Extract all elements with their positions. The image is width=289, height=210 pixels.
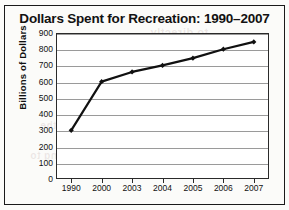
data-point-marker: [129, 69, 134, 74]
data-point-marker: [221, 47, 226, 52]
x-axis-tick-mark: [102, 179, 103, 183]
y-axis-tick-label: 100: [39, 158, 53, 168]
x-axis-tick-mark: [163, 179, 164, 183]
y-axis-tick-label: 600: [39, 77, 53, 87]
y-axis-tick-label: 700: [39, 60, 53, 70]
y-axis-tick-label: 500: [39, 93, 53, 103]
x-axis-tick-label: 2005: [183, 183, 202, 193]
chart-figure: to directly GRAPH A the going to Dollars…: [0, 0, 289, 210]
y-axis-tick-label: 300: [39, 125, 53, 135]
data-point-marker: [160, 63, 165, 68]
data-point-marker: [251, 39, 256, 44]
x-axis-tick-labels: 1990200020032004200520062007: [56, 183, 269, 199]
data-series-line: [56, 33, 269, 179]
y-axis-tick-label: 200: [39, 142, 53, 152]
y-axis-tick-label: 0: [48, 174, 53, 184]
y-axis-tick-label: 800: [39, 44, 53, 54]
series-polyline: [71, 42, 254, 130]
x-axis-tick-label: 2007: [244, 183, 263, 193]
chart-title: Dollars Spent for Recreation: 1990–2007: [0, 11, 289, 26]
y-axis-tick-label: 400: [39, 109, 53, 119]
x-axis-tick-label: 2000: [92, 183, 111, 193]
x-axis-tick-mark: [132, 179, 133, 183]
y-axis-tick-labels: 0100200300400500600700800900: [20, 33, 56, 179]
data-point-marker: [190, 56, 195, 61]
x-axis-tick-mark: [254, 179, 255, 183]
x-axis-tick-label: 1990: [62, 183, 81, 193]
x-axis-tick-label: 2006: [214, 183, 233, 193]
x-axis-tick-mark: [193, 179, 194, 183]
x-axis-tick-label: 2003: [123, 183, 142, 193]
x-axis-tick-mark: [71, 179, 72, 183]
y-axis-tick-label: 900: [39, 28, 53, 38]
x-axis-tick-label: 2004: [153, 183, 172, 193]
x-axis-tick-mark: [223, 179, 224, 183]
